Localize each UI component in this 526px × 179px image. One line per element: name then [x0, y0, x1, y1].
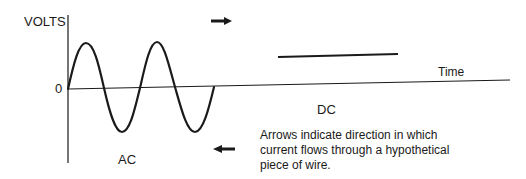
x-axis-label: Time [438, 66, 464, 78]
caption-line: current flows through a hypothetical [260, 143, 490, 158]
left-arrow-icon [213, 145, 235, 153]
caption-line: Arrows indicate direction in which [260, 128, 490, 143]
zero-label: 0 [55, 82, 62, 95]
dc-label: DC [317, 103, 336, 116]
y-axis-label: VOLTS [24, 15, 66, 28]
right-arrow-icon [211, 17, 232, 25]
dc-line [278, 54, 398, 57]
x-axis [68, 80, 510, 89]
caption: Arrows indicate direction in which curre… [260, 128, 490, 173]
caption-line: piece of wire. [260, 158, 490, 173]
ac-label: AC [118, 153, 136, 166]
